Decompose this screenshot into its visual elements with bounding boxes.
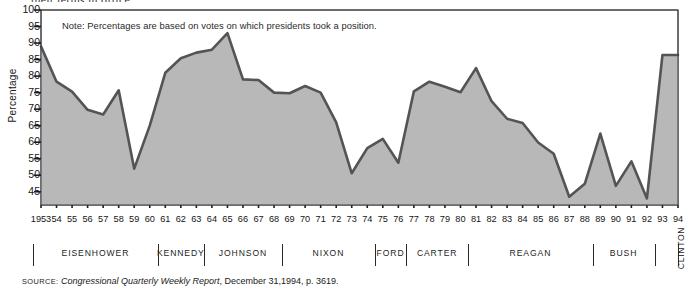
president-term-bands: EISENHOWERKENNEDYJOHNSONNIXONFORDCARTERR… xyxy=(0,244,698,270)
x-tick-label: 76 xyxy=(393,214,403,224)
x-tick-label: 58 xyxy=(114,214,124,224)
y-tick-label: 55 xyxy=(18,154,40,163)
x-tick-label: 66 xyxy=(238,214,248,224)
y-tick-label: 95 xyxy=(18,22,40,31)
president-label-johnson: JOHNSON xyxy=(219,248,267,258)
y-tick-label: 90 xyxy=(18,38,40,47)
x-tick-label: 71 xyxy=(316,214,326,224)
x-tick-label: 59 xyxy=(129,214,139,224)
x-tick-label: 89 xyxy=(595,214,605,224)
x-tick-label: 62 xyxy=(176,214,186,224)
x-tick-label: 73 xyxy=(347,214,357,224)
president-label-carter: CARTER xyxy=(417,248,458,258)
president-divider xyxy=(204,244,205,266)
president-divider xyxy=(406,244,407,266)
x-tick-label: 68 xyxy=(269,214,279,224)
x-tick-label: 81 xyxy=(471,214,481,224)
president-divider xyxy=(678,244,679,266)
plot-area: Percentage 4550556065707580859095100 Not… xyxy=(0,8,698,208)
x-tick-label: 84 xyxy=(518,214,528,224)
y-tick-label: 85 xyxy=(18,55,40,64)
source-citation: SOURCE: Congressional Quarterly Weekly R… xyxy=(22,276,339,286)
president-divider xyxy=(282,244,283,266)
x-tick-label: 70 xyxy=(300,214,310,224)
x-tick-label: 63 xyxy=(191,214,201,224)
x-tick-label: 56 xyxy=(82,214,92,224)
x-tick-label: 69 xyxy=(284,214,294,224)
y-axis-ticks: 4550556065707580859095100 xyxy=(0,8,40,208)
x-tick-label: 86 xyxy=(549,214,559,224)
president-divider xyxy=(158,244,159,266)
y-tick-label: 65 xyxy=(18,121,40,130)
y-tick-label: 75 xyxy=(18,88,40,97)
president-divider xyxy=(655,244,656,266)
x-tick-label: 67 xyxy=(253,214,263,224)
x-tick-label: 77 xyxy=(409,214,419,224)
x-tick-label: 60 xyxy=(145,214,155,224)
x-tick-label: 87 xyxy=(564,214,574,224)
x-tick-label: 93 xyxy=(657,214,667,224)
y-tick-label: 100 xyxy=(18,5,40,14)
president-divider xyxy=(468,244,469,266)
x-axis-year-labels: 1953545556575859606162636465666768697071… xyxy=(0,214,698,226)
x-tick-label: 54 xyxy=(51,214,61,224)
y-tick-label: 50 xyxy=(18,170,40,179)
chart-note: Note: Percentages are based on votes on … xyxy=(62,20,377,31)
x-tick-label: 80 xyxy=(455,214,465,224)
x-tick-label: 74 xyxy=(362,214,372,224)
president-label-kennedy: KENNEDY xyxy=(157,248,205,258)
source-rest: , December 31,1994, p. 3619. xyxy=(219,276,338,286)
x-tick-label: 82 xyxy=(486,214,496,224)
source-label: SOURCE: xyxy=(22,277,58,286)
president-divider xyxy=(375,244,376,266)
x-tick-label: 79 xyxy=(440,214,450,224)
x-tick-label: 94 xyxy=(673,214,683,224)
president-label-eisenhower: EISENHOWER xyxy=(62,248,130,258)
president-divider xyxy=(593,244,594,266)
y-tick-label: 45 xyxy=(18,187,40,196)
y-tick-label: 70 xyxy=(18,104,40,113)
x-tick-label: 78 xyxy=(424,214,434,224)
x-tick-label: 91 xyxy=(626,214,636,224)
x-tick-label: 85 xyxy=(533,214,543,224)
area-chart-svg xyxy=(0,8,698,208)
president-divider xyxy=(33,244,34,266)
president-label-ford: FORD xyxy=(377,248,405,258)
source-title: Congressional Quarterly Weekly Report xyxy=(61,276,219,286)
chart-figure: their terms in office. Percentage 455055… xyxy=(0,0,698,294)
y-tick-label: 60 xyxy=(18,137,40,146)
president-label-nixon: NIXON xyxy=(313,248,345,258)
x-tick-label: 57 xyxy=(98,214,108,224)
president-label-reagan: REAGAN xyxy=(510,248,552,258)
x-tick-label: 88 xyxy=(580,214,590,224)
x-tick-label: 90 xyxy=(611,214,621,224)
x-tick-label: 83 xyxy=(502,214,512,224)
x-tick-label: 72 xyxy=(331,214,341,224)
x-tick-label: 1953 xyxy=(31,214,51,224)
y-tick-label: 80 xyxy=(18,71,40,80)
president-label-bush: BUSH xyxy=(610,248,637,258)
clipped-body-text: their terms in office. xyxy=(31,0,133,2)
x-tick-label: 92 xyxy=(642,214,652,224)
x-tick-label: 61 xyxy=(160,214,170,224)
x-tick-label: 64 xyxy=(207,214,217,224)
x-tick-label: 65 xyxy=(222,214,232,224)
x-tick-label: 55 xyxy=(67,214,77,224)
x-tick-label: 75 xyxy=(378,214,388,224)
